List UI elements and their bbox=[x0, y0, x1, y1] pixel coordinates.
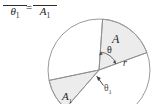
label-sector-area-A: A bbox=[112, 33, 119, 45]
label-A1-text: A bbox=[62, 90, 69, 102]
label-sector-area-A1: A1 bbox=[62, 91, 72, 104]
label-theta-text: θ bbox=[107, 44, 112, 55]
label-angle-theta: θ bbox=[107, 45, 112, 55]
circle-sector-area-proportion-figure: θ1 = A1 A r θ A1 θ1 bbox=[0, 0, 156, 104]
label-angle-theta1: θ1 bbox=[104, 84, 112, 95]
label-radius-r: r bbox=[123, 58, 127, 68]
circle-diagram bbox=[0, 0, 156, 104]
label-r-text: r bbox=[123, 57, 127, 68]
label-A-text: A bbox=[112, 32, 119, 46]
label-theta1-subscript: 1 bbox=[109, 88, 112, 95]
label-A1-subscript: 1 bbox=[69, 97, 72, 104]
